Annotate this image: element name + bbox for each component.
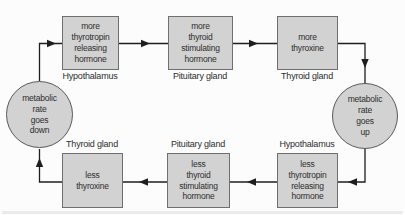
organ-label-hypothalamus-bottom: Hypothalamus — [262, 139, 352, 149]
arrowhead-left-icon — [247, 178, 256, 185]
organ-label-pituitary-top: Pituitary gland — [155, 71, 245, 81]
arrowhead-right-icon — [141, 40, 150, 47]
arrowhead-down-icon — [361, 59, 368, 68]
arrowhead-left-icon — [348, 178, 357, 185]
box-more-thyrotropin-releasing-hormone: more thyrotropin releasing hormone — [62, 16, 119, 70]
feedback-loop-diagram: more thyrotropin releasing hormone more … — [0, 0, 405, 215]
organ-label-hypothalamus-top: Hypothalamus — [45, 71, 135, 81]
arrowhead-left-icon — [139, 178, 148, 185]
arrowhead-up-icon — [36, 158, 43, 167]
arrowhead-right-icon — [249, 40, 258, 47]
arrowhead-right-icon — [47, 40, 56, 47]
organ-label-thyroid-top: Thyroid gland — [262, 71, 352, 81]
box-more-thyroid-stimulating-hormone: more thyroid stimulating hormone — [168, 16, 233, 70]
circle-metabolic-rate-down: metabolic rate goes down — [6, 81, 73, 148]
box-less-thyrotropin-releasing-hormone: less thyrotropin releasing hormone — [277, 153, 338, 208]
arrow-circle-up-to-less-trh — [338, 149, 365, 182]
box-less-thyroxine: less thyroxine — [62, 153, 123, 208]
organ-label-thyroid-bottom: Thyroid gland — [47, 139, 137, 149]
page-edge-shadow — [2, 211, 403, 214]
arrow-less-thyroxine-to-circle-down — [40, 149, 63, 182]
box-more-thyroxine: more thyroxine — [277, 16, 338, 70]
organ-label-pituitary-bottom: Pituitary gland — [153, 139, 243, 149]
box-less-thyroid-stimulating-hormone: less thyroid stimulating hormone — [167, 153, 230, 208]
